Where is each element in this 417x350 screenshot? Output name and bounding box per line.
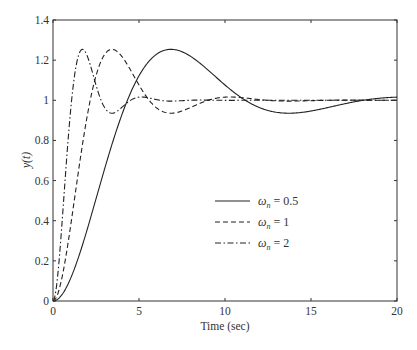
y-tick-label: 0.2 — [35, 255, 50, 267]
y-tick-label: 0 — [43, 295, 49, 307]
series-line-solid — [53, 49, 397, 301]
legend-label: ωn = 1 — [258, 215, 289, 231]
x-tick-label: 5 — [136, 305, 142, 317]
series-line-dashdot — [53, 49, 397, 301]
x-tick-label: 10 — [219, 305, 231, 317]
y-tick-label: 0.6 — [35, 175, 50, 187]
y-tick-label: 1 — [43, 94, 49, 106]
step-response-chart: 0510152000.20.40.60.811.21.4 Time (sec) … — [0, 0, 417, 350]
plot-curves — [53, 49, 397, 301]
series-line-dashed — [53, 49, 397, 301]
y-axis-label: y(t) — [20, 152, 33, 169]
axis-ticks: 0510152000.20.40.60.811.21.4 — [35, 14, 403, 317]
y-tick-label: 1.2 — [35, 54, 50, 66]
y-tick-label: 0.4 — [35, 215, 50, 227]
y-tick-label: 0.8 — [35, 134, 50, 146]
x-tick-label: 20 — [391, 305, 403, 317]
plot-frame — [53, 20, 397, 301]
legend-label: ωn = 0.5 — [258, 194, 298, 210]
x-axis-label: Time (sec) — [200, 320, 249, 333]
x-tick-label: 0 — [50, 305, 56, 317]
legend-label: ωn = 2 — [258, 236, 289, 252]
legend: ωn = 0.5ωn = 1ωn = 2 — [215, 194, 298, 252]
x-tick-label: 15 — [305, 305, 317, 317]
y-tick-label: 1.4 — [35, 14, 50, 26]
